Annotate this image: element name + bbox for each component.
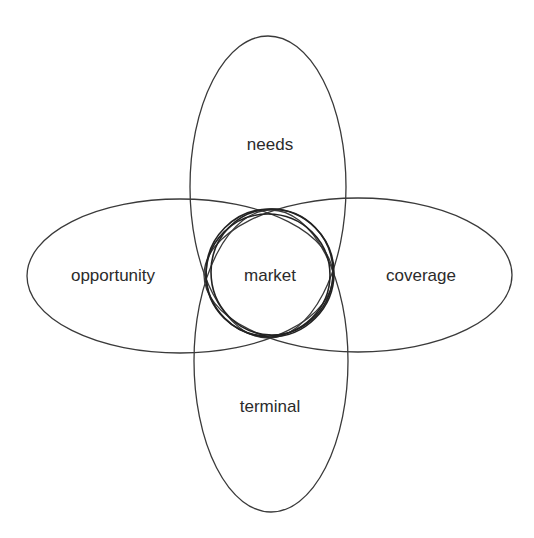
petal-terminal	[194, 210, 348, 512]
label-opportunity: opportunity	[71, 266, 156, 285]
label-needs: needs	[247, 135, 293, 154]
venn-flower-diagram: needs opportunity coverage terminal mark…	[0, 0, 534, 538]
label-coverage: coverage	[386, 266, 456, 285]
label-market: market	[244, 266, 296, 285]
label-terminal: terminal	[240, 397, 300, 416]
